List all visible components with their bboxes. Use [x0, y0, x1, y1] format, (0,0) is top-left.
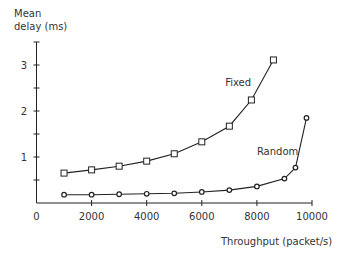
circle-marker-icon [172, 191, 177, 196]
square-marker-icon [171, 151, 177, 157]
y-axis-title-line: Mean [14, 8, 41, 19]
circle-marker-icon [89, 192, 94, 197]
y-tick-label: 2 [21, 106, 27, 117]
circle-marker-icon [282, 176, 287, 181]
series-label-random: Random [257, 146, 298, 157]
series-labels: FixedRandom [225, 77, 298, 157]
x-tick-label: 10000 [296, 211, 328, 222]
square-marker-icon [89, 167, 95, 173]
circle-marker-icon [144, 192, 149, 197]
y-axis-title-line: delay (ms) [14, 21, 67, 32]
square-marker-icon [61, 170, 67, 176]
square-marker-icon [226, 123, 232, 129]
circle-marker-icon [117, 192, 122, 197]
x-axis-title: Throughput (packet/s) [220, 236, 332, 247]
x-tick-label: 2000 [79, 211, 104, 222]
y-tick-label: 3 [21, 60, 27, 71]
axes [37, 42, 313, 203]
data-series [61, 57, 309, 197]
square-marker-icon [270, 57, 276, 63]
y-axis-title: Meandelay (ms) [14, 8, 67, 32]
circle-marker-icon [255, 184, 260, 189]
delay-vs-throughput-chart: Meandelay (ms) 1230200040006000800010000… [0, 0, 339, 253]
series-fixed [61, 57, 276, 176]
series-label-fixed: Fixed [225, 77, 251, 88]
square-marker-icon [248, 97, 254, 103]
circle-marker-icon [200, 190, 205, 195]
x-tick-label: 8000 [244, 211, 269, 222]
x-tick-label: 0 [33, 211, 39, 222]
x-tick-label: 4000 [134, 211, 159, 222]
circle-marker-icon [304, 116, 309, 121]
square-marker-icon [199, 139, 205, 145]
square-marker-icon [144, 158, 150, 164]
circle-marker-icon [227, 188, 232, 193]
circle-marker-icon [293, 165, 298, 170]
x-tick-label: 6000 [189, 211, 214, 222]
y-tick-label: 1 [21, 152, 27, 163]
circle-marker-icon [62, 192, 67, 197]
square-marker-icon [116, 163, 122, 169]
